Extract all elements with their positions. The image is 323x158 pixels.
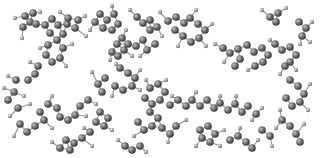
carbon-atom [252, 110, 260, 118]
hydrogen-atom [218, 144, 222, 148]
hydrogen-atom [176, 44, 180, 48]
carbon-atom [10, 88, 18, 96]
carbon-atom [136, 142, 144, 150]
carbon-atom [119, 86, 127, 94]
carbon-atom [108, 26, 116, 34]
carbon-atom [94, 80, 102, 88]
hydrogen-atom [308, 82, 312, 86]
hydrogen-atom [218, 94, 222, 98]
hydrogen-atom [50, 126, 54, 130]
carbon-atom [179, 32, 187, 40]
hydrogen-atom [8, 114, 12, 118]
hydrogen-atom [278, 72, 282, 76]
carbon-atom [96, 108, 104, 116]
carbon-atom [19, 23, 27, 31]
hydrogen-atom [94, 102, 98, 106]
carbon-atom [41, 21, 49, 29]
carbon-atom [243, 41, 251, 49]
hydrogen-atom [138, 68, 142, 72]
carbon-atom [226, 49, 234, 57]
carbon-atom [44, 100, 52, 108]
hydrogen-atom [194, 144, 198, 148]
carbon-atom [98, 88, 106, 96]
hydrogen-atom [50, 140, 54, 144]
carbon-atom [141, 94, 149, 102]
hydrogen-atom [250, 118, 254, 122]
carbon-atom [53, 36, 61, 44]
carbon-atom [128, 82, 136, 90]
carbon-atom [56, 144, 64, 152]
carbon-atom [198, 134, 206, 142]
carbon-atom [53, 104, 61, 112]
carbon-atom [195, 34, 203, 42]
carbon-atom [210, 104, 218, 112]
carbon-atom [148, 122, 156, 130]
carbon-atom [282, 94, 290, 102]
hydrogen-atom [144, 150, 148, 154]
carbon-atom [4, 96, 12, 104]
carbon-atom [234, 132, 242, 140]
carbon-atom [132, 42, 140, 50]
hydrogen-atom [260, 8, 264, 12]
hydrogen-atom [70, 42, 74, 46]
hydrogen-atom [130, 54, 134, 58]
carbon-atom [278, 46, 286, 54]
carbon-atom [56, 54, 64, 62]
carbon-atom [24, 76, 32, 84]
hydrogen-atom [108, 58, 112, 62]
hydrogen-atom [222, 128, 226, 132]
carbon-atom [121, 142, 129, 150]
hydrogen-atom [116, 138, 120, 142]
carbon-atom [148, 100, 156, 108]
hydrogen-atom [204, 44, 208, 48]
hydrogen-atom [64, 64, 68, 68]
carbon-atom [64, 14, 72, 22]
carbon-atom [272, 18, 280, 26]
carbon-atom [31, 70, 39, 78]
carbon-atom [151, 40, 159, 48]
carbon-atom [164, 17, 172, 25]
carbon-atom [292, 130, 300, 138]
carbon-atom [248, 144, 256, 152]
carbon-atom [281, 62, 289, 70]
carbon-atom [286, 122, 294, 130]
carbon-atom [40, 116, 48, 124]
hydrogen-atom [310, 20, 314, 24]
carbon-atom [219, 44, 227, 52]
hydrogen-atom [38, 46, 42, 50]
carbon-atom [250, 48, 258, 56]
hydrogen-atom [294, 68, 298, 72]
carbon-atom [236, 55, 244, 63]
carbon-atom [278, 116, 286, 124]
carbon-atom [264, 51, 272, 59]
carbon-atom [158, 124, 166, 132]
carbon-atom [134, 118, 142, 126]
hydrogen-atom [194, 8, 198, 12]
hydrogen-atom [138, 54, 142, 58]
carbon-atom [154, 114, 162, 122]
carbon-atom [271, 40, 279, 48]
carbon-atoms-layer [4, 9, 310, 154]
carbon-atom [206, 138, 214, 146]
carbon-atom [174, 96, 182, 104]
carbon-atom [166, 101, 174, 109]
carbon-atom [302, 24, 310, 32]
carbon-atom [226, 136, 234, 144]
hydrogen-atom [6, 74, 10, 78]
carbon-atom [296, 138, 304, 146]
carbon-atom [76, 102, 84, 110]
carbon-atom [166, 130, 174, 138]
carbon-atom [124, 40, 132, 48]
carbon-atom [242, 138, 250, 146]
hydrogen-atom [268, 38, 272, 42]
hydrogen-atom [158, 10, 162, 14]
carbon-atom [186, 14, 194, 22]
carbon-atom [139, 19, 147, 27]
carbon-atom [114, 52, 122, 60]
carbon-atom [231, 62, 239, 70]
carbon-atom [59, 44, 67, 52]
carbon-atom [70, 139, 78, 147]
carbon-atom [300, 90, 308, 98]
carbon-atom [14, 104, 22, 112]
hydrogen-atom [160, 34, 164, 38]
